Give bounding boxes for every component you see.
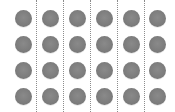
grid-dot [123,88,140,105]
column-divider [117,0,118,112]
column-divider [90,0,91,112]
column-divider [36,0,37,112]
grid-dot [69,88,86,105]
grid-dot [96,36,113,53]
grid-dot [123,36,140,53]
column-divider [144,0,145,112]
grid-dot [69,36,86,53]
grid-dot [69,62,86,79]
grid-dot [42,10,59,27]
grid-dot [149,88,166,105]
grid-dot [123,10,140,27]
grid-dot [149,36,166,53]
grid-dot [15,10,32,27]
grid-dot [15,88,32,105]
grid-dot [69,10,86,27]
grid-dot [123,62,140,79]
grid-dot [42,88,59,105]
grid-dot [96,10,113,27]
grid-dot [15,36,32,53]
grid-dot [42,62,59,79]
grid-dot [96,88,113,105]
dot-grid [0,0,175,112]
grid-dot [42,36,59,53]
grid-dot [15,62,32,79]
column-divider [63,0,64,112]
grid-dot [149,10,166,27]
grid-dot [149,62,166,79]
grid-dot [96,62,113,79]
